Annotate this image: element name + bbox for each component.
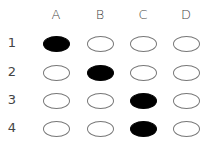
bubble-4a[interactable] [43,121,70,137]
bubble-3a[interactable] [43,93,70,109]
row-label-4: 4 [6,120,18,135]
row-label-1: 1 [6,35,18,50]
bubble-2b[interactable] [87,65,114,81]
bubble-3c[interactable] [130,93,157,109]
bubble-3d[interactable] [173,93,200,109]
column-label-b: B [90,7,110,22]
bubble-4d[interactable] [173,121,200,137]
bubble-2c[interactable] [130,65,157,81]
bubble-4c[interactable] [130,121,157,137]
column-label-c: C [133,7,153,22]
column-label-a: A [46,7,66,22]
bubble-1d[interactable] [173,36,200,52]
row-label-2: 2 [6,64,18,79]
bubble-2d[interactable] [173,65,200,81]
bubble-4b[interactable] [87,121,114,137]
column-label-d: D [176,7,196,22]
bubble-1b[interactable] [87,36,114,52]
bubble-1c[interactable] [130,36,157,52]
bubble-1a[interactable] [43,36,70,52]
row-label-3: 3 [6,92,18,107]
bubble-3b[interactable] [87,93,114,109]
bubble-2a[interactable] [43,65,70,81]
